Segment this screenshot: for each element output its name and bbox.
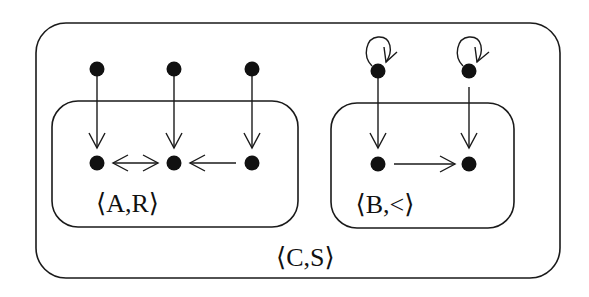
node-a2	[167, 156, 182, 171]
node-c1	[90, 62, 105, 77]
outer-structure-label: ⟨C,S⟩	[276, 243, 335, 272]
relation-edge-a1-a2-bidirectional	[113, 155, 158, 171]
map-edge-c5-b2	[461, 87, 477, 148]
node-c2	[167, 62, 182, 77]
map-edge-c3-a3	[244, 70, 260, 148]
map-edge-c4-b1	[370, 72, 386, 148]
node-a3	[245, 156, 260, 171]
relation-edge-a3-a2	[190, 155, 236, 171]
map-edge-c2-a2	[166, 70, 182, 148]
self-loop-c4	[366, 37, 397, 66]
node-c5	[462, 64, 477, 79]
node-a1	[90, 156, 105, 171]
structure-a-label: ⟨A,R⟩	[96, 189, 159, 218]
node-b1	[371, 157, 386, 172]
structure-diagram: ⟨A,R⟩ ⟨B,<⟩ ⟨C,S⟩	[0, 0, 589, 297]
node-b2	[462, 157, 477, 172]
node-c3	[245, 62, 260, 77]
relation-edge-b1-b2	[394, 156, 455, 172]
map-edge-c1-a1	[89, 70, 105, 148]
structure-b-label: ⟨B,<⟩	[356, 190, 415, 219]
self-loop-c5	[457, 37, 489, 66]
node-c4	[371, 64, 386, 79]
